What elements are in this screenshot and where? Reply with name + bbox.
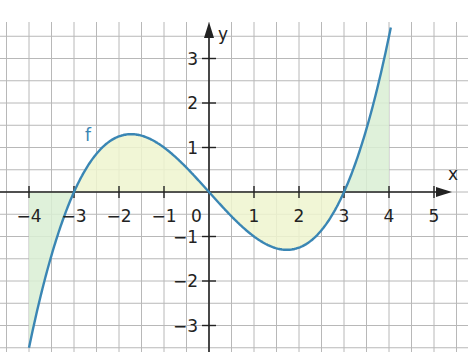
x-tick-label: 0 [191, 206, 202, 226]
y-axis-label: y [218, 24, 228, 44]
y-tick-label: 3 [187, 49, 198, 69]
chart-canvas: −4−3−2−1012345−3−2−1123 f x y [0, 0, 468, 352]
x-tick-label: 3 [339, 206, 350, 226]
y-tick-label: −3 [173, 316, 198, 336]
x-tick-label: 4 [384, 206, 395, 226]
y-tick-label: −2 [173, 271, 198, 291]
x-tick-label: −4 [16, 206, 41, 226]
x-tick-label: 2 [294, 206, 305, 226]
y-tick-label: 2 [187, 93, 198, 113]
x-tick-label: 1 [249, 206, 260, 226]
y-tick-label: −1 [173, 227, 198, 247]
x-tick-label: −2 [106, 206, 131, 226]
x-axis-arrow-icon [436, 187, 452, 197]
x-tick-label: −1 [151, 206, 176, 226]
x-tick-label: 5 [429, 206, 440, 226]
function-label: f [85, 125, 92, 145]
function-graph: −4−3−2−1012345−3−2−1123 f x y [0, 0, 468, 352]
grid [0, 22, 468, 352]
y-tick-label: 1 [187, 138, 198, 158]
y-axis-arrow-icon [204, 22, 214, 38]
shaded-region [209, 192, 344, 250]
x-axis-label: x [448, 164, 458, 184]
x-tick-label: −3 [61, 206, 86, 226]
